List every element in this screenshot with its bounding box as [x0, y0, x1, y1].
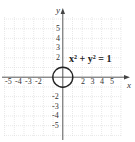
y-tick-label: 3: [56, 43, 60, 52]
x-tick-labels: -5 -4 -3 -2 2 3 4 5: [5, 77, 114, 86]
x-tick-label: 2: [81, 77, 85, 86]
x-tick-label: -2: [35, 77, 42, 86]
x-tick-label: -3: [25, 77, 32, 86]
y-tick-label: 2: [56, 53, 60, 62]
y-axis: [61, 8, 65, 140]
x-axis-label: x: [126, 80, 131, 90]
x-tick-label: 3: [91, 77, 95, 86]
y-tick-label: -3: [52, 102, 59, 111]
x-tick-label: 4: [100, 77, 104, 86]
y-tick-label: -4: [52, 111, 59, 120]
y-axis-label: y: [55, 5, 60, 15]
x-tick-label: -4: [15, 77, 22, 86]
x-tick-label: -5: [5, 77, 12, 86]
equation-label: x² + y² = 1: [69, 53, 111, 64]
coordinate-plane: y x -5 -4 -3 -2 2 3 4 5 5 4 3 2 -2 -3 -4…: [0, 0, 135, 142]
y-axis-arrow-icon: [61, 8, 65, 14]
y-tick-label: -5: [52, 121, 59, 130]
x-tick-label: 5: [110, 77, 114, 86]
y-tick-label: 5: [56, 24, 60, 33]
y-tick-label: 4: [56, 34, 60, 43]
y-tick-label: -2: [52, 92, 59, 101]
x-axis-arrow-icon: [124, 75, 130, 79]
